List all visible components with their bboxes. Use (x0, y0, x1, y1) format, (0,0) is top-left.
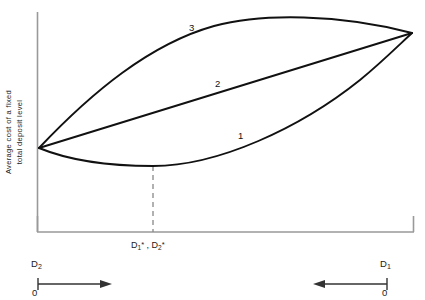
y-axis-label-line-2: total deposit level (14, 90, 25, 174)
y-axis-label-line-1: Average cost of a fixed (4, 90, 15, 174)
d1-axis-arrowhead-icon (313, 280, 325, 288)
curve-label-2: 2 (215, 78, 220, 89)
d2-axis-zero-label: 0 (32, 287, 37, 298)
figure-container: Average cost of a fixed total deposit le… (0, 0, 425, 300)
d2-axis-variable-text: D2 (31, 258, 42, 269)
chart-canvas (0, 0, 425, 300)
d1-axis-variable-label: D1 (380, 258, 391, 270)
curve-label-1: 1 (238, 130, 243, 141)
curve-2-path (39, 33, 412, 148)
d2-axis-variable-label: D2 (31, 258, 42, 270)
curve-1-path (39, 33, 412, 166)
optimum-deposit-label-text: D1* , D2* (131, 240, 165, 250)
y-axis-label: Average cost of a fixed total deposit le… (0, 42, 28, 222)
curve-label-3: 3 (189, 22, 194, 33)
d1-axis-variable-text: D1 (380, 258, 391, 269)
optimum-deposit-label: D1* , D2* (131, 240, 165, 251)
d2-axis-arrowhead-icon (100, 280, 112, 288)
d1-axis-zero-label: 0 (382, 287, 387, 298)
